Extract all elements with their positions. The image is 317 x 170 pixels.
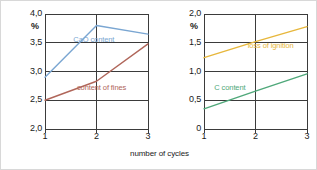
chart-right-x-axis-labels: 123	[160, 131, 317, 147]
figure-container: 2,02,53,03,54,0% 123 CaO contentcontent …	[0, 0, 317, 170]
x-axis-title: number of cycles	[1, 149, 317, 158]
chart-right: 00,51,01,52,0% 123 loss of ignitionC con…	[160, 1, 317, 170]
y-axis-unit: %	[31, 21, 39, 31]
series-label: loss of ignition	[248, 41, 294, 50]
x-tick-label: 3	[304, 131, 309, 141]
x-tick-label: 1	[42, 131, 47, 141]
y-tick-label: 3,0	[30, 66, 42, 76]
y-tick-label: 1,5	[189, 37, 201, 47]
x-tick-label: 2	[253, 131, 258, 141]
x-tick-label: 1	[201, 131, 206, 141]
x-tick-label: 3	[145, 131, 150, 141]
x-tick-label: 2	[94, 131, 99, 141]
series-label: CaO content	[73, 35, 114, 44]
chart-left: 2,02,53,03,54,0% 123 CaO contentcontent …	[1, 1, 159, 170]
y-tick-label: 1,0	[189, 66, 201, 76]
y-tick-label: 2,0	[189, 8, 201, 18]
y-axis-unit: %	[190, 21, 198, 31]
y-tick-label: 3,5	[30, 37, 42, 47]
chart-left-x-axis-labels: 123	[1, 131, 159, 147]
series-label: C content	[214, 83, 245, 92]
y-tick-label: 4,0	[30, 8, 42, 18]
y-tick-label: 0,5	[189, 94, 201, 104]
series-label: content of fines	[77, 83, 126, 92]
y-tick-label: 2,5	[30, 94, 42, 104]
